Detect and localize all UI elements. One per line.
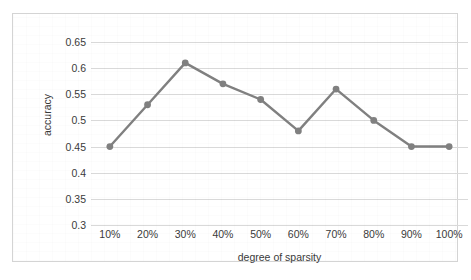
y-axis-tick-label: 0.5: [46, 115, 86, 126]
data-point-marker: [220, 80, 227, 87]
x-axis-tick-label: 10%: [99, 229, 120, 240]
x-axis-tick-label: 90%: [401, 229, 422, 240]
x-axis-tick-label: 30%: [175, 229, 196, 240]
y-axis-tick-label: 0.65: [46, 37, 86, 48]
x-axis-tick-label: 80%: [363, 229, 384, 240]
data-point-marker: [144, 101, 151, 108]
data-point-marker: [446, 143, 453, 150]
data-point-marker: [257, 96, 264, 103]
data-point-marker: [333, 86, 340, 93]
x-axis-tick-label: 60%: [288, 229, 309, 240]
y-axis-tick-label: 0.6: [46, 63, 86, 74]
x-axis-tick-label: 70%: [326, 229, 347, 240]
x-axis-tick-label: 100%: [436, 229, 463, 240]
x-axis-tick-labels: 10%20%30%40%50%60%70%80%90%100%: [91, 229, 468, 245]
x-axis-tick-label: 50%: [250, 229, 271, 240]
y-axis-tick-label: 0.55: [46, 89, 86, 100]
y-axis-tick-label: 0.35: [46, 194, 86, 205]
data-point-marker: [295, 127, 302, 134]
chart-frame: accuracy 0.30.350.40.450.50.550.60.65 10…: [12, 13, 458, 262]
accuracy-line-series: [91, 42, 468, 225]
data-point-marker: [182, 60, 189, 67]
y-axis-tick-label: 0.3: [46, 220, 86, 231]
series-polyline: [110, 63, 449, 147]
series-markers: [106, 60, 452, 150]
x-axis-tick-label: 20%: [137, 229, 158, 240]
y-axis-tick-label: 0.45: [46, 141, 86, 152]
x-axis-tick-label: 40%: [212, 229, 233, 240]
data-point-marker: [370, 117, 377, 124]
y-axis-tick-labels: 0.30.350.40.450.50.550.60.65: [41, 42, 86, 225]
x-axis-title: degree of sparsity: [91, 251, 468, 263]
data-point-marker: [106, 143, 113, 150]
y-axis-tick-label: 0.4: [46, 167, 86, 178]
data-point-marker: [408, 143, 415, 150]
gridline: [91, 225, 468, 226]
plot-area: [91, 42, 468, 225]
